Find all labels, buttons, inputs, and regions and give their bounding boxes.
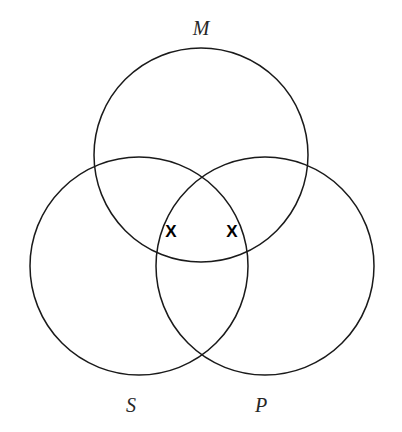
circle-s (30, 157, 248, 375)
x-mark-left: X (165, 222, 177, 241)
circle-p (156, 157, 374, 375)
venn-diagram-svg: M S P X X (0, 0, 402, 432)
circle-m (94, 48, 308, 262)
label-s: S (126, 394, 136, 416)
venn-diagram-canvas: M S P X X (0, 0, 402, 432)
label-m: M (192, 17, 211, 39)
x-mark-right: X (226, 222, 238, 241)
label-p: P (254, 394, 267, 416)
